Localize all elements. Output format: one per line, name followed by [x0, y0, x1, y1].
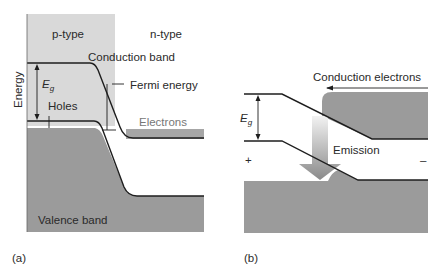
conduction-electrons-label: Conduction electrons [313, 71, 421, 83]
minus-sign: – [420, 154, 427, 166]
emission-label: Emission [333, 144, 380, 156]
pn-junction-diagram: p-type n-type Conduction band Fermi ener… [0, 0, 444, 278]
panel-a: p-type n-type Conduction band Fermi ener… [12, 14, 204, 264]
fermi-energy-label: Fermi energy [130, 79, 198, 91]
caption-a: (a) [12, 252, 26, 264]
holes-label: Holes [48, 100, 78, 112]
n-type-label: n-type [150, 28, 182, 40]
p-type-label: p-type [52, 28, 84, 40]
valence-band-label: Valence band [38, 214, 107, 226]
energy-axis-label: Energy [12, 71, 24, 108]
caption-b: (b) [244, 252, 258, 264]
panel-b: Conduction electrons Emission + – (b) Eg [240, 71, 428, 264]
gap-symbol-b: Eg [240, 112, 253, 127]
electrons-label: Electrons [139, 116, 187, 128]
conduction-band-label: Conduction band [88, 51, 175, 63]
plus-sign: + [245, 154, 252, 166]
conduction-electrons-fill [322, 92, 428, 139]
